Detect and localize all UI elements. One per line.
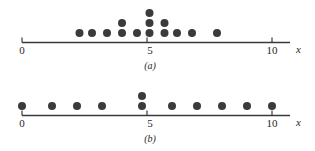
x-tick-label-5-b: 5 bbox=[138, 117, 162, 129]
dot-plot-panel-b: 0 5 10 x (b) bbox=[0, 73, 315, 151]
x-axis-variable-label-a: x bbox=[296, 43, 301, 55]
panel-caption-b: (b) bbox=[130, 133, 170, 145]
dot-plot-panel-a: 0 5 10 x (a) bbox=[0, 0, 315, 76]
dot-mark bbox=[188, 29, 196, 37]
x-tick-label-5-a: 5 bbox=[138, 44, 162, 56]
dot-mark bbox=[73, 102, 81, 110]
dot-mark bbox=[168, 102, 176, 110]
dot-mark bbox=[213, 29, 221, 37]
dot-mark bbox=[146, 19, 154, 27]
dot-mark bbox=[193, 102, 201, 110]
dot-marks-a bbox=[76, 9, 222, 37]
dot-mark bbox=[88, 29, 96, 37]
dot-marks-b bbox=[18, 92, 276, 110]
dot-mark bbox=[268, 102, 276, 110]
x-tick-label-0-a: 0 bbox=[10, 44, 34, 56]
dot-mark bbox=[243, 102, 251, 110]
dot-mark bbox=[118, 29, 126, 37]
dot-mark bbox=[48, 102, 56, 110]
dot-mark bbox=[161, 19, 169, 27]
dot-mark bbox=[76, 29, 84, 37]
dot-mark bbox=[218, 102, 226, 110]
x-tick-label-10-b: 10 bbox=[260, 117, 284, 129]
dot-mark bbox=[138, 92, 146, 100]
panel-caption-a: (a) bbox=[130, 60, 170, 72]
dot-mark bbox=[133, 29, 141, 37]
dot-mark bbox=[118, 19, 126, 27]
x-tick-label-10-a: 10 bbox=[260, 44, 284, 56]
dot-mark bbox=[146, 29, 154, 37]
dot-mark bbox=[138, 102, 146, 110]
dot-mark bbox=[98, 102, 106, 110]
dot-mark bbox=[146, 9, 154, 17]
dot-mark bbox=[18, 102, 26, 110]
dot-mark bbox=[173, 29, 181, 37]
dot-plot-figure: 0 5 10 x (a) 0 5 10 x (b) bbox=[0, 0, 315, 151]
dot-mark bbox=[103, 29, 111, 37]
x-tick-label-0-b: 0 bbox=[10, 117, 34, 129]
x-axis-variable-label-b: x bbox=[296, 116, 301, 128]
dot-mark bbox=[161, 29, 169, 37]
